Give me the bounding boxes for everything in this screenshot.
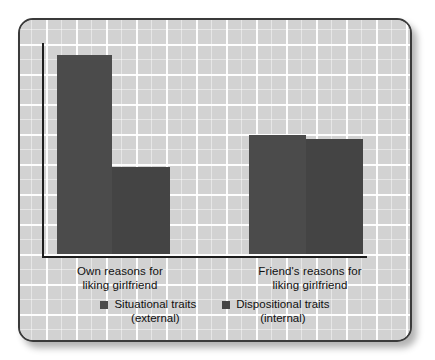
legend-label-dispositional: Dispositional traits (internal) <box>236 297 329 325</box>
legend-label-dispositional-line1: Dispositional traits <box>236 298 329 310</box>
legend-item-situational[interactable]: Situational traits (external) <box>100 297 196 325</box>
chart-panel: Own reasons for liking girlfriend Friend… <box>18 18 412 342</box>
category-label-friends-reasons: Friend's reasons for liking girlfriend <box>225 264 395 292</box>
bar-friend-dispositional[interactable] <box>306 139 363 254</box>
bar-own-dispositional[interactable] <box>112 167 170 254</box>
legend-label-dispositional-line2: (internal) <box>236 311 329 325</box>
plot-area <box>20 20 410 340</box>
y-axis-line <box>42 43 44 258</box>
category-label-friends-reasons-line2: liking girlfriend <box>272 279 347 291</box>
legend-label-situational-line2: (external) <box>114 311 196 325</box>
x-axis-line <box>42 256 367 258</box>
legend-label-situational-line1: Situational traits <box>114 298 196 310</box>
legend-item-dispositional[interactable]: Dispositional traits (internal) <box>222 297 329 325</box>
legend-swatch-situational-icon <box>100 301 108 309</box>
bar-friend-situational[interactable] <box>249 135 306 254</box>
legend-swatch-dispositional-icon <box>222 301 230 309</box>
category-label-friends-reasons-line1: Friend's reasons for <box>258 265 361 277</box>
legend-label-situational: Situational traits (external) <box>114 297 196 325</box>
category-label-own-reasons: Own reasons for liking girlfriend <box>40 264 200 292</box>
bar-own-situational[interactable] <box>57 55 112 254</box>
category-label-own-reasons-line2: liking girlfriend <box>82 279 157 291</box>
category-label-own-reasons-line1: Own reasons for <box>77 265 163 277</box>
chart-legend: Situational traits (external) Dispositio… <box>20 297 410 325</box>
